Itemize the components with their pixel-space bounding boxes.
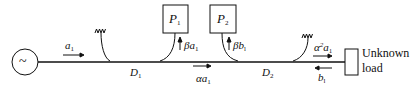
d2-termination-arm — [293, 38, 308, 61]
incident-wave-label: a1 — [65, 40, 74, 55]
detector-p2-signal: βbl — [233, 40, 246, 55]
detector-p1-label: P1 — [169, 12, 180, 30]
detector-p2-label: P2 — [217, 12, 228, 30]
load-label-line2: load — [362, 62, 383, 75]
d1-termination-arm — [101, 33, 110, 61]
coupler-d1-label: D1 — [130, 67, 141, 82]
load-label-line1: Unknown — [362, 47, 409, 60]
detector-p1-signal: βa1 — [184, 40, 198, 55]
coupler-d2-label: D2 — [262, 67, 273, 82]
d2-termination-icon — [302, 34, 313, 38]
p1-arm — [160, 33, 175, 61]
d1-termination-icon — [95, 29, 106, 33]
between-couplers-wave-label: αa1 — [196, 73, 211, 88]
load-box — [345, 49, 358, 75]
load-incident-wave-label: α2a1 — [314, 40, 332, 57]
source-symbol: ~ — [19, 55, 27, 68]
reflected-wave-label: bl — [318, 72, 325, 87]
